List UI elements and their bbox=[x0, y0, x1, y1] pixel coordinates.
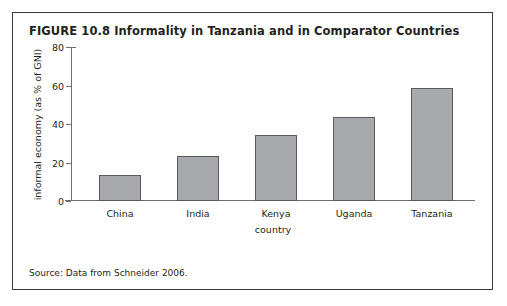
bar bbox=[411, 88, 453, 201]
y-axis-line bbox=[71, 47, 72, 201]
source-note: Source: Data from Schneider 2006. bbox=[29, 268, 188, 278]
x-tick-label: India bbox=[186, 208, 209, 219]
bar-group-india: India bbox=[177, 156, 219, 201]
y-tick-mark bbox=[66, 124, 71, 125]
x-tick-label: Uganda bbox=[336, 208, 373, 219]
bar-group-china: China bbox=[99, 175, 141, 201]
y-tick-label: 80 bbox=[52, 42, 64, 53]
figure-title: FIGURE 10.8 Informality in Tanzania and … bbox=[29, 24, 459, 38]
y-tick-label: 60 bbox=[52, 80, 64, 91]
y-tick-mark bbox=[66, 201, 71, 202]
bar bbox=[99, 175, 141, 201]
bar bbox=[255, 135, 297, 201]
y-tick-mark bbox=[66, 163, 71, 164]
bar-group-uganda: Uganda bbox=[333, 117, 375, 201]
y-tick-label: 0 bbox=[58, 196, 64, 207]
y-tick-mark bbox=[66, 47, 71, 48]
bar-group-tanzania: Tanzania bbox=[411, 88, 453, 201]
y-tick-label: 40 bbox=[52, 119, 64, 130]
x-tick-label: Tanzania bbox=[411, 208, 452, 219]
x-axis-title: country bbox=[71, 224, 475, 235]
y-axis-top-cap bbox=[71, 47, 76, 48]
plot-area: 80 60 40 20 0 China India Kenya bbox=[71, 47, 475, 201]
figure-frame: FIGURE 10.8 Informality in Tanzania and … bbox=[12, 12, 493, 290]
y-tick-mark bbox=[66, 86, 71, 87]
bar bbox=[177, 156, 219, 201]
bar bbox=[333, 117, 375, 201]
y-tick-label: 20 bbox=[52, 157, 64, 168]
y-axis-title: informal economy (as % of GNI) bbox=[31, 47, 45, 201]
bar-group-kenya: Kenya bbox=[255, 135, 297, 201]
x-tick-label: Kenya bbox=[261, 208, 290, 219]
y-axis-title-label: informal economy (as % of GNI) bbox=[33, 48, 44, 200]
x-tick-label: China bbox=[106, 208, 133, 219]
